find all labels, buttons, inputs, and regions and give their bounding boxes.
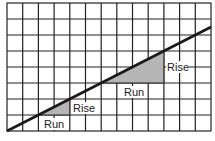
- slope-diagram: Rise Run Rise Run: [0, 0, 215, 141]
- small-rise-label: Rise: [73, 102, 95, 114]
- small-run-label: Run: [44, 118, 64, 130]
- large-run-label: Run: [124, 86, 144, 98]
- large-rise-label: Rise: [167, 61, 189, 73]
